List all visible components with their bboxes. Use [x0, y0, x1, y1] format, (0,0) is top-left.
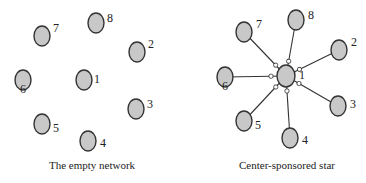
sponsor-marker-1-7: [274, 63, 278, 67]
node-label-1: 1: [299, 68, 305, 82]
center-sponsored-star-panel: 12345678: [217, 8, 357, 148]
node-label-4: 4: [100, 136, 106, 150]
node-3: [330, 96, 346, 116]
node-5: [34, 114, 50, 134]
sponsor-marker-1-3: [297, 81, 301, 85]
caption-empty-network: The empty network: [49, 159, 136, 171]
sponsor-marker-1-8: [287, 59, 291, 63]
sponsor-marker-1-6: [269, 74, 273, 78]
caption-center-sponsored-star: Center-sponsored star: [239, 159, 335, 171]
node-label-8: 8: [308, 8, 314, 22]
sponsor-marker-1-5: [274, 85, 278, 89]
node-7: [34, 26, 50, 46]
node-4: [80, 131, 96, 151]
node-label-7: 7: [256, 17, 262, 31]
node-2: [331, 40, 347, 60]
node-3: [128, 99, 144, 119]
node-1: [277, 65, 295, 87]
node-1: [76, 70, 92, 90]
node-label-1: 1: [94, 72, 100, 86]
node-label-6: 6: [20, 82, 26, 96]
sponsor-marker-1-4: [285, 89, 289, 93]
node-7: [236, 22, 252, 42]
node-label-3: 3: [147, 97, 153, 111]
node-label-3: 3: [350, 97, 356, 111]
node-8: [288, 10, 304, 30]
node-label-2: 2: [351, 35, 357, 49]
node-4: [282, 128, 298, 148]
node-label-8: 8: [107, 11, 113, 25]
node-label-5: 5: [255, 118, 261, 132]
network-diagrams: 12345678 12345678 The empty network Cent…: [0, 0, 366, 183]
node-label-4: 4: [302, 133, 308, 147]
node-label-5: 5: [53, 121, 59, 135]
empty-network-panel: 12345678: [15, 11, 154, 151]
node-8: [88, 13, 104, 33]
node-label-2: 2: [148, 37, 154, 51]
node-label-6: 6: [222, 79, 228, 93]
node-label-7: 7: [53, 21, 59, 35]
node-5: [236, 111, 252, 131]
node-2: [129, 42, 145, 62]
